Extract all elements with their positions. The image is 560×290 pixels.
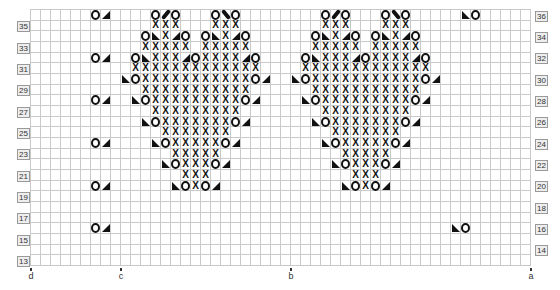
x-stitch-icon: X [162,31,169,41]
left-triangle-icon [132,96,140,104]
chart-cell [101,53,111,64]
chart-cell [431,170,441,181]
chart-cell: X [311,42,321,53]
x-stitch-icon: X [382,20,389,30]
chart-cell [421,42,431,53]
chart-cell [81,74,91,85]
chart-cell [241,106,251,117]
chart-cell [521,117,531,128]
chart-cell [291,42,301,53]
chart-cell [341,234,351,245]
chart-cell [241,159,251,170]
chart-cell [41,95,51,106]
chart-cell [391,191,401,202]
chart-cell [271,170,281,181]
chart-cell [91,127,101,138]
chart-cell [421,138,431,149]
chart-cell [51,106,61,117]
x-stitch-icon: X [162,127,169,137]
chart-cell [101,74,111,85]
yarn-over-icon [181,31,190,41]
chart-cell [41,138,51,149]
row-number-label: 35 [17,21,30,32]
right-triangle-icon [232,139,240,147]
x-stitch-icon: X [172,95,179,105]
chart-cell [491,127,501,138]
chart-cell [281,127,291,138]
chart-cell [351,191,361,202]
row-number-label: 30 [535,75,548,86]
chart-cell [511,234,521,245]
chart-cell [111,95,121,106]
chart-cell [491,191,501,202]
chart-cell [491,213,501,224]
yarn-over-icon [321,10,330,20]
chart-cell [371,191,381,202]
chart-cell [241,213,251,224]
chart-cell: X [141,42,151,53]
chart-cell: X [131,63,141,74]
chart-cell [491,138,501,149]
chart-cell [321,255,331,266]
chart-cell [511,53,521,64]
x-stitch-icon: X [332,106,339,116]
chart-cell [51,255,61,266]
x-stitch-icon: X [182,170,189,180]
x-stitch-icon: X [342,63,349,73]
chart-cell [471,63,481,74]
chart-cell [311,255,321,266]
chart-cell [211,245,221,256]
chart-cell [251,223,261,234]
chart-cell [191,42,201,53]
chart-cell [421,85,431,96]
x-stitch-icon: X [372,74,379,84]
chart-cell [461,31,471,42]
chart-cell [491,202,501,213]
x-stitch-icon: X [152,42,159,52]
chart-cell [331,202,341,213]
chart-cell [111,117,121,128]
chart-cell [251,191,261,202]
chart-cell [111,223,121,234]
chart-cell [91,74,101,85]
chart-cell [51,53,61,64]
chart-cell: X [361,181,371,192]
chart-cell [331,181,341,192]
x-stitch-icon: X [222,20,229,30]
chart-cell [431,245,441,256]
chart-cell [201,202,211,213]
chart-cell [471,223,481,234]
chart-cell [71,10,81,21]
chart-cell [61,170,71,181]
chart-cell [281,42,291,53]
chart-cell [461,117,471,128]
chart-cell [421,234,431,245]
chart-cell [461,42,471,53]
x-stitch-icon: X [152,74,159,84]
chart-cell [121,245,131,256]
chart-cell [421,10,431,21]
chart-cell [461,245,471,256]
x-stitch-icon: X [202,85,209,95]
chart-cell [101,127,111,138]
chart-cell [121,255,131,266]
chart-cell [121,191,131,202]
chart-cell [121,63,131,74]
chart-cell [261,63,271,74]
chart-cell [141,159,151,170]
chart-cell [31,53,41,64]
chart-cell [101,159,111,170]
left-triangle-icon [142,118,150,126]
chart-cell [511,245,521,256]
chart-cell [431,85,441,96]
chart-cell [291,170,301,181]
yarn-over-icon [341,10,350,20]
marker-label: c [119,271,124,281]
chart-cell [481,149,491,160]
chart-cell [451,42,461,53]
chart-cell [51,191,61,202]
chart-cell [141,106,151,117]
chart-cell [511,106,521,117]
chart-cell [101,181,111,192]
x-stitch-icon: X [372,149,379,159]
